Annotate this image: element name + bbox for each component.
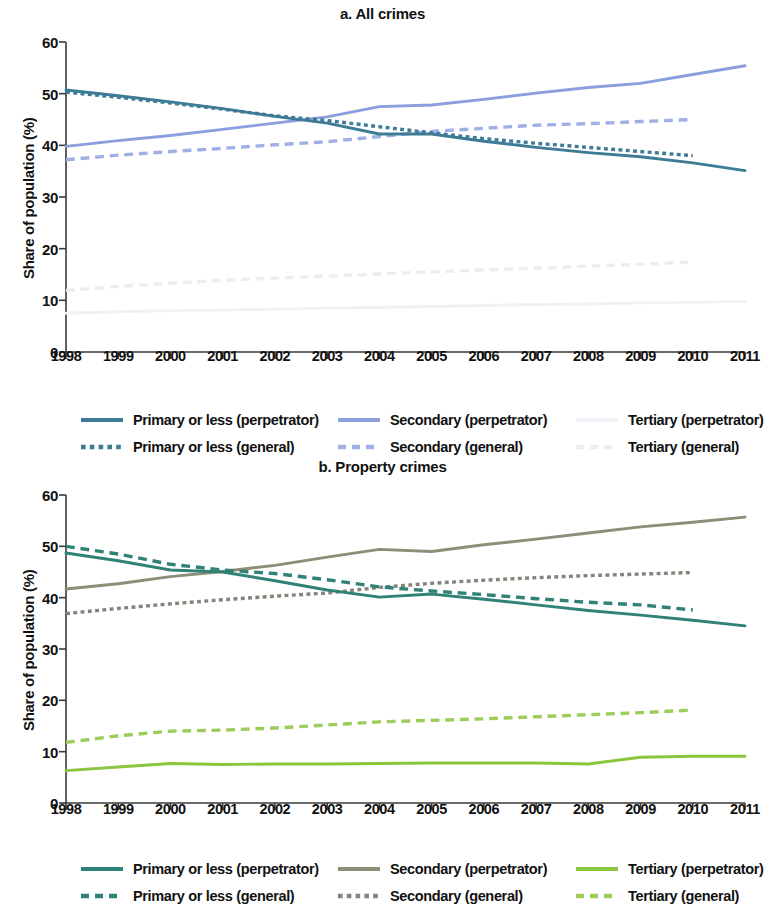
series-line: [66, 517, 745, 589]
legend-label: Tertiary (perpetrator): [628, 412, 763, 428]
panel-b-x-tick-labels: 1998199920002001200220032004200520062007…: [0, 801, 765, 825]
panel-a-x-tick-labels: 1998199920002001200220032004200520062007…: [0, 348, 765, 372]
x-tick-label: 2006: [469, 801, 500, 817]
panel-a-series-canvas: [0, 24, 765, 378]
legend-label: Tertiary (general): [628, 888, 739, 904]
legend-line-swatch-icon: [80, 889, 124, 903]
legend-label: Tertiary (general): [628, 439, 739, 455]
legend-label: Primary or less (general): [133, 888, 294, 904]
legend-line-swatch-icon: [575, 862, 619, 876]
x-tick-label: 2004: [364, 801, 395, 817]
legend-line-swatch-icon: [337, 889, 381, 903]
legend-line-swatch-icon: [575, 413, 619, 427]
x-tick-label: 2000: [155, 801, 186, 817]
legend-label: Primary or less (perpetrator): [133, 861, 319, 877]
x-tick-label: 2010: [677, 801, 708, 817]
legend-line-swatch-icon: [80, 862, 124, 876]
legend-item[interactable]: Secondary (perpetrator): [337, 855, 547, 882]
legend-label: Tertiary (perpetrator): [628, 861, 763, 877]
legend-line-swatch-icon: [337, 862, 381, 876]
x-tick-label: 2008: [573, 801, 604, 817]
legend-line-swatch-icon: [575, 889, 619, 903]
panel-b-series-canvas: [0, 477, 765, 829]
panel-a-plot-area: Share of population (%) 6050403020100: [0, 24, 765, 374]
x-tick-label: 2005: [416, 348, 447, 364]
x-tick-label: 2004: [364, 348, 395, 364]
x-tick-label: 2000: [155, 348, 186, 364]
panel-b-legend-row-perpetrator: Primary or less (perpetrator)Secondary (…: [0, 855, 765, 882]
x-tick-label: 2006: [469, 348, 500, 364]
chart-panel-all-crimes: a. All crimes Share of population (%) 60…: [0, 0, 765, 455]
legend-item[interactable]: Secondary (perpetrator): [337, 406, 547, 433]
legend-line-swatch-icon: [80, 413, 124, 427]
x-tick-label: 2007: [521, 801, 552, 817]
panel-a-legend: Primary or less (perpetrator)Secondary (…: [0, 400, 765, 460]
x-tick-label: 2011: [730, 348, 760, 364]
x-tick-label: 2002: [260, 801, 291, 817]
legend-item[interactable]: Primary or less (perpetrator): [80, 855, 319, 882]
panel-b-title: b. Property crimes: [0, 455, 765, 477]
series-line: [66, 756, 745, 770]
x-tick-label: 1998: [51, 801, 82, 817]
legend-item[interactable]: Primary or less (general): [80, 882, 294, 905]
x-tick-label: 2005: [416, 801, 447, 817]
legend-item[interactable]: Tertiary (general): [575, 882, 739, 905]
axis-lines: [66, 42, 745, 352]
legend-item[interactable]: Tertiary (perpetrator): [575, 855, 763, 882]
series-line: [66, 90, 745, 171]
x-tick-label: 2009: [625, 348, 656, 364]
x-tick-label: 2009: [625, 801, 656, 817]
x-tick-label: 2001: [207, 348, 238, 364]
x-tick-label: 2002: [260, 348, 291, 364]
x-tick-label: 1999: [103, 801, 134, 817]
legend-line-swatch-icon: [80, 440, 124, 454]
x-tick-label: 2003: [312, 801, 343, 817]
legend-item[interactable]: Primary or less (perpetrator): [80, 406, 319, 433]
legend-label: Secondary (perpetrator): [390, 861, 547, 877]
legend-label: Secondary (general): [390, 888, 523, 904]
x-tick-label: 2011: [730, 801, 760, 817]
panel-a-title: a. All crimes: [0, 0, 765, 24]
x-tick-label: 1999: [103, 348, 134, 364]
series-line: [66, 301, 745, 313]
x-tick-label: 1998: [51, 348, 82, 364]
series-line: [66, 710, 693, 742]
legend-line-swatch-icon: [337, 413, 381, 427]
x-tick-label: 2007: [521, 348, 552, 364]
legend-item[interactable]: Secondary (general): [337, 882, 523, 905]
x-tick-label: 2008: [573, 348, 604, 364]
panel-b-legend-row-general: Primary or less (general)Secondary (gene…: [0, 882, 765, 905]
panel-b-plot-area: Share of population (%) 6050403020100: [0, 477, 765, 825]
legend-label: Primary or less (perpetrator): [133, 412, 319, 428]
legend-label: Secondary (perpetrator): [390, 412, 547, 428]
legend-label: Primary or less (general): [133, 439, 294, 455]
x-tick-label: 2001: [207, 801, 238, 817]
chart-panel-property-crimes: b. Property crimes Share of population (…: [0, 455, 765, 905]
legend-item[interactable]: Tertiary (perpetrator): [575, 406, 763, 433]
x-tick-label: 2010: [677, 348, 708, 364]
legend-label: Secondary (general): [390, 439, 523, 455]
legend-line-swatch-icon: [337, 440, 381, 454]
series-line: [66, 262, 693, 290]
x-tick-label: 2003: [312, 348, 343, 364]
panel-b-legend: Primary or less (perpetrator)Secondary (…: [0, 849, 765, 905]
legend-line-swatch-icon: [575, 440, 619, 454]
panel-a-legend-row-perpetrator: Primary or less (perpetrator)Secondary (…: [0, 406, 765, 433]
